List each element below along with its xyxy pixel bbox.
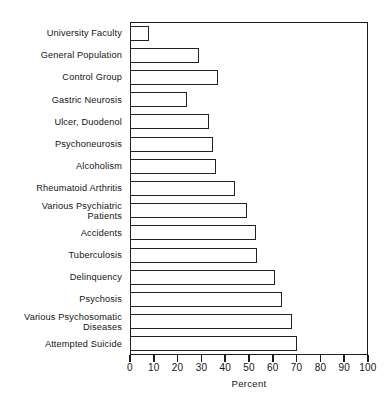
category-label: Rheumatoid Arthritis: [36, 183, 122, 193]
plot-frame: [130, 22, 368, 355]
category-label: Alcoholism: [76, 161, 122, 171]
category-label: Delinquency: [70, 272, 122, 282]
category-label: University Faculty: [47, 28, 122, 38]
x-tick-label: 60: [267, 362, 279, 374]
x-tick: [177, 355, 179, 362]
x-tick-label: 40: [219, 362, 231, 374]
category-label: Various Psychosomatic Diseases: [24, 312, 122, 332]
x-tick: [224, 355, 226, 362]
category-label: Control Group: [62, 72, 122, 82]
x-tick-label: 30: [196, 362, 208, 374]
x-tick: [201, 355, 203, 362]
x-tick: [296, 355, 298, 362]
x-tick-label: 10: [148, 362, 160, 374]
category-label: Ulcer, Duodenol: [54, 117, 122, 127]
x-tick-label: 100: [359, 362, 376, 374]
category-label: Gastric Neurosis: [52, 95, 122, 105]
x-axis-title: Percent: [130, 378, 368, 389]
x-tick-label: 80: [315, 362, 327, 374]
category-label: Attempted Suicide: [45, 339, 122, 349]
x-tick: [320, 355, 322, 362]
x-tick: [248, 355, 250, 362]
category-label: Psychoneurosis: [55, 139, 122, 149]
category-label: Various Psychiatric Patients: [42, 201, 122, 221]
x-tick: [367, 355, 369, 362]
category-label: Tuberculosis: [68, 250, 122, 260]
category-label: Psychosis: [79, 294, 122, 304]
x-axis-tick-labels: 0102030405060708090100: [0, 362, 390, 376]
category-label: General Population: [41, 50, 122, 60]
bar-chart: University FacultyGeneral PopulationCont…: [0, 0, 390, 404]
x-tick: [272, 355, 274, 362]
x-tick-label: 20: [172, 362, 184, 374]
category-label-column: University FacultyGeneral PopulationCont…: [0, 22, 126, 355]
x-tick-label: 0: [127, 362, 133, 374]
x-tick: [343, 355, 345, 362]
x-tick: [153, 355, 155, 362]
x-tick-label: 90: [338, 362, 350, 374]
x-tick-label: 70: [291, 362, 303, 374]
category-label: Accidents: [81, 228, 122, 238]
x-tick: [129, 355, 131, 362]
x-tick-label: 50: [243, 362, 255, 374]
